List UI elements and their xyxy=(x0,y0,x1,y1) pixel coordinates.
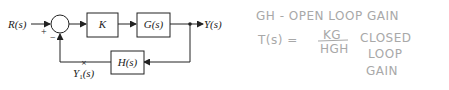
h-block-label: H(s) xyxy=(117,56,138,69)
note-open-loop-gain: GH - OPEN LOOP GAIN xyxy=(256,9,399,23)
note-gain: GAIN xyxy=(366,64,398,78)
minus-sign: − xyxy=(50,32,56,43)
plus-sign: + xyxy=(41,26,47,37)
feedback-path-left xyxy=(60,34,111,62)
block-diagram: R(s) + − K G(s) Y(s) H(s) × Y1(s) GH - O… xyxy=(0,0,449,90)
measurement-label: Y1(s) xyxy=(73,67,95,81)
g-block-label: G(s) xyxy=(144,18,164,31)
note-loop: LOOP xyxy=(368,47,402,61)
summing-junction xyxy=(51,15,69,33)
note-tf-lhs: T(s) = xyxy=(257,33,298,47)
k-block-label: K xyxy=(98,18,107,30)
note-tf-denominator: HGH xyxy=(320,42,349,56)
measurement-x-mark: × xyxy=(81,59,87,67)
note-closed: CLOSED xyxy=(360,31,412,45)
output-label: Y(s) xyxy=(204,18,222,31)
input-label: R(s) xyxy=(7,18,27,31)
